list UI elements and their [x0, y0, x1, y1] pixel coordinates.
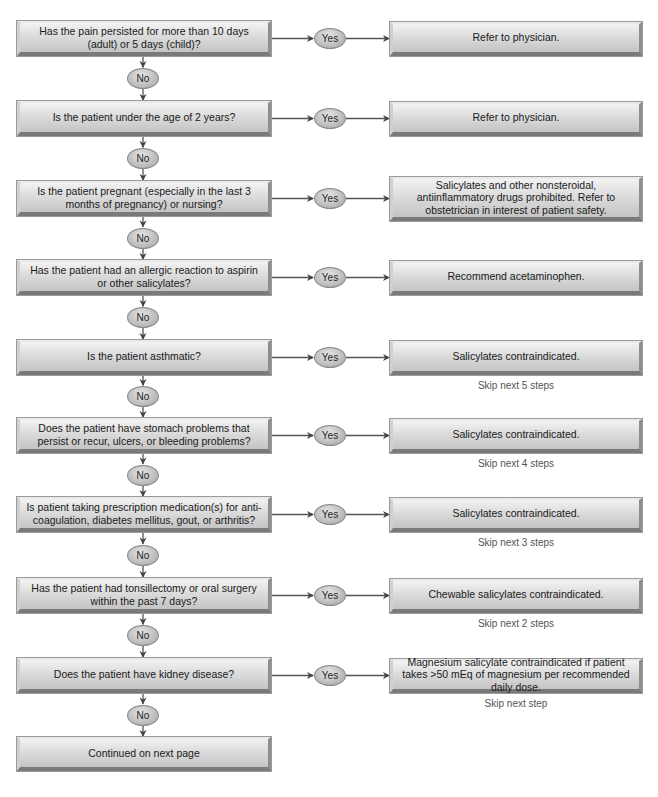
- question-text: Is the patient under the age of 2 years?: [53, 111, 236, 124]
- action-text: Salicylates and other nonsteroidal, anti…: [399, 179, 633, 217]
- question-box: Does the patient have kidney disease?: [17, 658, 271, 693]
- skip-note: Skip next 5 steps: [390, 380, 642, 391]
- question-text: Does the patient have stomach problems t…: [26, 422, 262, 447]
- end-label: Continued on next page: [88, 747, 200, 760]
- no-label: No: [137, 550, 150, 561]
- action-text: Salicylates contraindicated.: [452, 428, 579, 441]
- yes-oval: Yes: [314, 425, 346, 446]
- no-oval: No: [127, 148, 159, 169]
- action-text: Salicylates contraindicated.: [452, 507, 579, 520]
- question-text: Has the patient had an allergic reaction…: [26, 264, 262, 289]
- no-oval: No: [127, 545, 159, 566]
- no-label: No: [137, 630, 150, 641]
- question-text: Has the patient had tonsillectomy or ora…: [26, 582, 262, 607]
- no-oval: No: [127, 228, 159, 249]
- yes-oval: Yes: [314, 188, 346, 209]
- yes-oval: Yes: [314, 108, 346, 129]
- yes-oval: Yes: [314, 267, 346, 288]
- no-label: No: [137, 233, 150, 244]
- action-text: Chewable salicylates contraindicated.: [428, 588, 603, 601]
- skip-note: Skip next 2 steps: [390, 618, 642, 629]
- yes-label: Yes: [322, 590, 338, 601]
- yes-oval: Yes: [314, 665, 346, 686]
- question-box: Is the patient pregnant (especially in t…: [17, 181, 271, 216]
- question-box: Has the pain persisted for more than 10 …: [17, 21, 271, 56]
- action-text: Recommend acetaminophen.: [447, 270, 584, 283]
- skip-note: Skip next 3 steps: [390, 537, 642, 548]
- yes-oval: Yes: [314, 585, 346, 606]
- yes-label: Yes: [322, 352, 338, 363]
- no-label: No: [137, 391, 150, 402]
- action-box: Chewable salicylates contraindicated.: [390, 579, 642, 613]
- yes-label: Yes: [322, 430, 338, 441]
- yes-label: Yes: [322, 670, 338, 681]
- action-text: Refer to physician.: [473, 111, 560, 124]
- no-oval: No: [127, 68, 159, 89]
- action-box: Refer to physician.: [390, 102, 642, 136]
- question-box: Is patient taking prescription medicatio…: [17, 497, 271, 532]
- skip-note: Skip next step: [390, 698, 642, 709]
- no-label: No: [137, 153, 150, 164]
- no-label: No: [137, 470, 150, 481]
- action-box: Magnesium salicylate contraindicated if …: [390, 659, 642, 693]
- action-box: Salicylates contraindicated.: [390, 498, 642, 532]
- action-box: Salicylates contraindicated.: [390, 419, 642, 453]
- action-box: Salicylates and other nonsteroidal, anti…: [390, 177, 642, 221]
- no-label: No: [137, 312, 150, 323]
- yes-label: Yes: [322, 113, 338, 124]
- question-box: Has the patient had an allergic reaction…: [17, 260, 271, 295]
- action-box: Salicylates contraindicated.: [390, 341, 642, 375]
- question-text: Is the patient asthmatic?: [87, 350, 201, 363]
- no-oval: No: [127, 386, 159, 407]
- question-text: Does the patient have kidney disease?: [54, 668, 234, 681]
- action-text: Refer to physician.: [473, 31, 560, 44]
- skip-note: Skip next 4 steps: [390, 458, 642, 469]
- yes-oval: Yes: [314, 28, 346, 49]
- action-box: Refer to physician.: [390, 22, 642, 56]
- action-text: Salicylates contraindicated.: [452, 350, 579, 363]
- no-oval: No: [127, 307, 159, 328]
- no-oval: No: [127, 465, 159, 486]
- question-text: Is patient taking prescription medicatio…: [26, 501, 262, 526]
- yes-label: Yes: [322, 33, 338, 44]
- action-box: Recommend acetaminophen.: [390, 261, 642, 295]
- action-text: Magnesium salicylate contraindicated if …: [399, 656, 633, 694]
- no-label: No: [137, 710, 150, 721]
- no-oval: No: [127, 625, 159, 646]
- question-text: Is the patient pregnant (especially in t…: [26, 185, 262, 210]
- question-box: Has the patient had tonsillectomy or ora…: [17, 578, 271, 613]
- no-label: No: [137, 73, 150, 84]
- end-box: Continued on next page: [17, 737, 271, 771]
- yes-oval: Yes: [314, 504, 346, 525]
- question-box: Is the patient asthmatic?: [17, 340, 271, 375]
- no-oval: No: [127, 705, 159, 726]
- question-text: Has the pain persisted for more than 10 …: [26, 25, 262, 50]
- yes-oval: Yes: [314, 347, 346, 368]
- yes-label: Yes: [322, 509, 338, 520]
- yes-label: Yes: [322, 193, 338, 204]
- yes-label: Yes: [322, 272, 338, 283]
- question-box: Is the patient under the age of 2 years?: [17, 101, 271, 136]
- question-box: Does the patient have stomach problems t…: [17, 418, 271, 453]
